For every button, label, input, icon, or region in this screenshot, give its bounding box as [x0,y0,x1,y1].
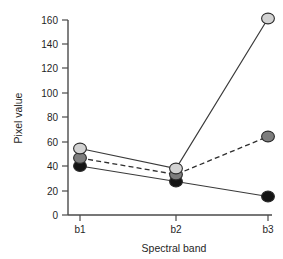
x-tick-label-b1: b1 [74,224,86,235]
chart-container: 160 140 120 100 80 60 40 20 0 b1 b2 b3 S… [0,0,283,259]
x-axis-title: Spectral band [142,242,207,254]
data-point-black-b3 [262,191,275,202]
data-point-medium-gray-b3 [262,131,275,142]
y-tick-label-40: 40 [47,161,59,172]
data-point-light-gray-b1 [74,143,87,154]
y-tick-label-0: 0 [52,210,58,221]
data-point-light-gray-b2 [170,163,183,174]
y-tick-label-80: 80 [47,112,59,123]
x-tick-label-b2: b2 [170,224,182,235]
y-axis-title: Pixel value [12,92,24,143]
y-tick-label-100: 100 [41,88,58,99]
y-tick-label-140: 140 [41,39,58,50]
y-tick-label-60: 60 [47,137,59,148]
series-line-light-gray [80,19,268,169]
x-tick-label-b3: b3 [262,224,274,235]
y-tick-label-160: 160 [41,15,58,26]
y-tick-label-20: 20 [47,186,59,197]
line-chart: 160 140 120 100 80 60 40 20 0 b1 b2 b3 S… [0,0,283,259]
y-tick-label-120: 120 [41,63,58,74]
data-point-light-gray-b3 [262,13,275,24]
